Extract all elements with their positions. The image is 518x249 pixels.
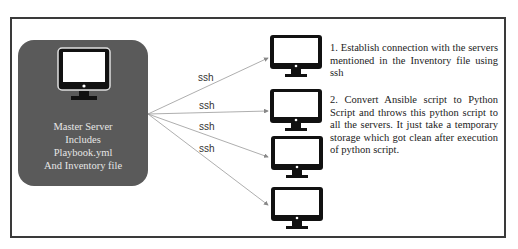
step-2-text: 2. Convert Ansible script to Python Scri… [330,94,498,157]
server-3 [271,136,323,178]
server-2 [270,89,322,131]
ssh-line-2 [148,111,268,114]
ssh-label-2: ssh [199,100,215,111]
server-1 [270,35,322,77]
step-1-text: 1. Establish connection with the servers… [330,42,498,80]
server-4 [271,187,323,229]
ssh-label-3: ssh [199,121,215,132]
ssh-label-4: ssh [199,143,215,154]
ssh-label-1: ssh [198,72,214,83]
